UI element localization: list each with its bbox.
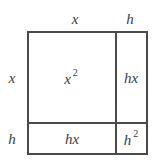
cell-x-squared-exponent: 2 [73,67,78,78]
cell-hx-bottom-text: hx [65,131,79,147]
outer-border-bottom [27,153,148,155]
outer-border-left [27,31,29,155]
cell-hx-right: hx [124,71,138,86]
cell-h-squared-base: h [124,132,132,148]
horizontal-divider [27,122,148,124]
cell-h-squared: h2 [124,131,139,148]
top-label-x: x [72,12,79,27]
vertical-divider [115,31,117,155]
outer-border-right [146,31,148,155]
cell-hx-bottom: hx [65,132,79,147]
side-label-x: x [9,71,16,86]
top-label-h: h [126,12,134,27]
cell-hx-right-text: hx [124,70,138,86]
cell-x-squared: x2 [64,70,78,87]
cell-x-squared-base: x [64,71,71,87]
side-label-h: h [8,132,16,147]
outer-border-top [27,31,148,33]
cell-h-squared-exponent: 2 [133,128,138,139]
